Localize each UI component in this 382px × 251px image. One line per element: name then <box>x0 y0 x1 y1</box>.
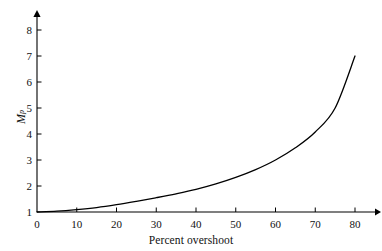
x-tick-label-70: 70 <box>310 219 321 230</box>
y-tick-label-4: 4 <box>19 129 32 140</box>
y-tick-label-1: 1 <box>19 207 32 218</box>
tick-marks-group <box>37 30 355 212</box>
y-tick-label-3: 3 <box>19 155 32 166</box>
y-axis-title-base: M <box>14 114 29 124</box>
plot-canvas <box>0 0 382 251</box>
x-tick-label-30: 30 <box>151 219 162 230</box>
y-axis-title-subscript: p <box>17 110 26 114</box>
x-tick-label-40: 40 <box>191 219 202 230</box>
y-tick-label-2: 2 <box>19 181 32 192</box>
x-tick-label-50: 50 <box>230 219 241 230</box>
x-axis-title: Percent overshoot <box>0 234 382 246</box>
y-tick-label-7: 7 <box>19 51 32 62</box>
data-series-group <box>37 56 355 212</box>
y-tick-label-6: 6 <box>19 77 32 88</box>
x-tick-label-20: 20 <box>111 219 122 230</box>
y-tick-label-8: 8 <box>19 25 32 36</box>
x-tick-label-80: 80 <box>350 219 361 230</box>
y-axis-title: Mp <box>6 104 36 130</box>
x-tick-label-60: 60 <box>270 219 281 230</box>
chart-figure: 0102030405060708012345678 Percent oversh… <box>0 0 382 251</box>
x-tick-label-10: 10 <box>71 219 82 230</box>
axes-group <box>33 10 381 216</box>
x-tick-label-0: 0 <box>34 219 40 230</box>
